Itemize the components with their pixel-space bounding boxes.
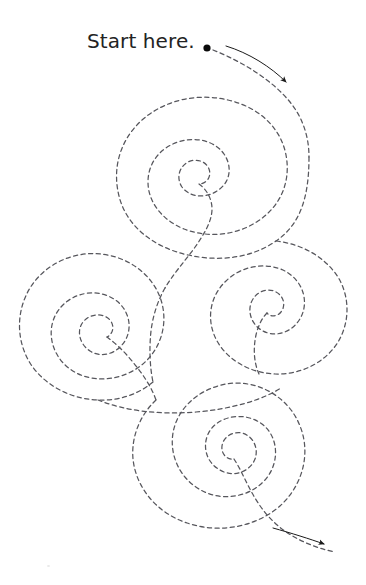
direction-arrow-top: [226, 46, 286, 82]
route-top-to-junction: [165, 184, 212, 288]
route-right-middle-tie: [254, 313, 267, 374]
spiral-path-figure: [0, 0, 366, 585]
start-dot: [203, 44, 210, 51]
dashed-route: [20, 50, 348, 552]
worksheet-page: Start here.: [0, 0, 366, 585]
direction-arrows: [226, 46, 324, 544]
direction-arrow-bottom: [273, 528, 324, 544]
spiral-left-path: [20, 254, 164, 401]
route-left-to-bottom: [107, 337, 156, 400]
route-lead-in: [213, 50, 309, 157]
spiral-right-middle-path: [211, 241, 347, 374]
route-exit: [234, 459, 335, 552]
start-here-label: Start here.: [87, 29, 195, 53]
spiral-top-path: [117, 97, 309, 258]
paper-speck: [47, 565, 50, 567]
route-mid-band: [98, 388, 281, 413]
spiral-bottom-path: [133, 383, 305, 528]
route-junction-descent: [150, 288, 165, 382]
